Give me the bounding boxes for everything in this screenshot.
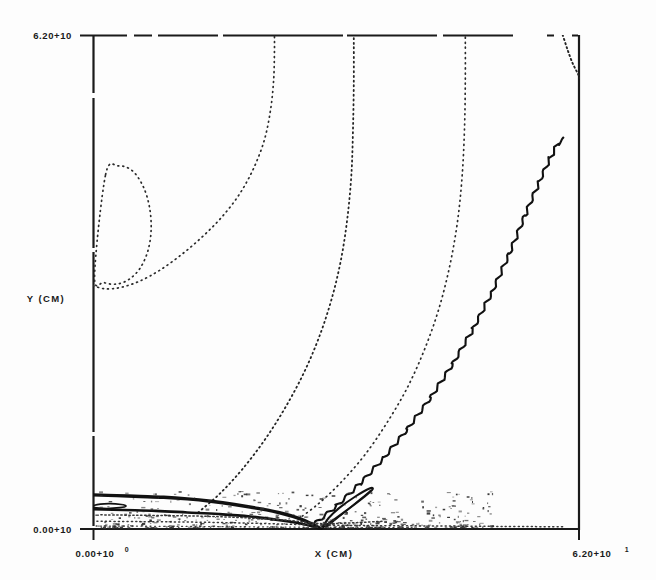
plot-canvas: 6.20+10 0.00+10 0.00+10 0 6.20+10 1 X (C… [0, 0, 656, 580]
x-min-tick-exponent: 0 [125, 546, 130, 553]
figure-background [0, 0, 656, 580]
x-max-tick-label: 6.20+10 [573, 548, 612, 559]
x-min-tick-label: 0.00+10 [76, 548, 115, 559]
x-axis-title: X (CM) [315, 548, 353, 559]
y-axis-title: Y (CM) [27, 293, 65, 304]
contour-plot-figure: 6.20+10 0.00+10 0.00+10 0 6.20+10 1 X (C… [0, 0, 656, 580]
x-max-tick-exponent: 1 [625, 546, 630, 553]
y-max-tick-label: 6.20+10 [33, 30, 72, 41]
y-min-tick-label: 0.00+10 [33, 524, 72, 535]
